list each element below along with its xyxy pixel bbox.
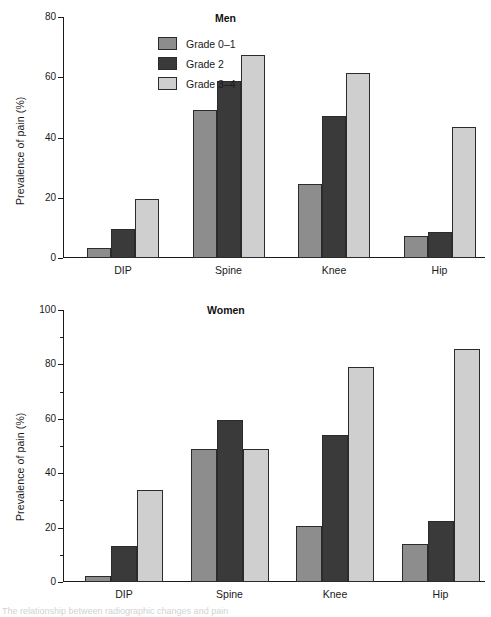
- y-tick-label: 0: [50, 253, 56, 263]
- y-tick-label: 100: [39, 305, 56, 315]
- bar: [402, 544, 428, 582]
- x-axis-category-label: Hip: [432, 264, 448, 276]
- y-tick-label: 80: [45, 12, 56, 22]
- y-tick-mark: [58, 528, 63, 529]
- figure-prevalence-of-pain: Prevalence of pain (%) Men 020406080 DIP…: [0, 0, 491, 617]
- y-tick-mark: [58, 138, 63, 139]
- y-tick-mark: [58, 17, 63, 18]
- y-tick-label: 60: [45, 72, 56, 82]
- legend-label-grade-2: Grade 2: [186, 58, 224, 70]
- y-tick-mark-minor: [60, 337, 63, 338]
- y-tick-label: 20: [45, 523, 56, 533]
- y-tick-mark: [58, 364, 63, 365]
- y-tick-label: 20: [45, 193, 56, 203]
- y-tick-label: 60: [45, 414, 56, 424]
- bar: [298, 184, 322, 258]
- legend-label-grade-3-4: Grade 3–4: [186, 78, 236, 90]
- legend: Grade 0–1 Grade 2 Grade 3–4: [158, 35, 236, 95]
- x-axis-category-label: Knee: [323, 588, 348, 600]
- bar: [452, 127, 476, 258]
- y-tick-mark: [58, 77, 63, 78]
- plot-area-women: 020406080100 DIPSpineKneeHip: [63, 310, 485, 582]
- y-tick-label: 40: [45, 468, 56, 478]
- bar-group: DIP: [87, 17, 159, 258]
- bar: [217, 420, 243, 582]
- bar: [111, 546, 137, 582]
- bar: [241, 55, 265, 258]
- y-tick-mark: [58, 258, 63, 259]
- bar: [348, 367, 374, 582]
- bar: [243, 449, 269, 582]
- bar: [87, 248, 111, 258]
- legend-item: Grade 0–1: [158, 35, 236, 52]
- y-axis-label-men: Prevalence of pain (%): [14, 97, 26, 205]
- figure-caption: The relationship between radiographic ch…: [2, 606, 472, 617]
- x-axis-category-label: Spine: [215, 264, 242, 276]
- x-axis-category-label: Hip: [433, 588, 449, 600]
- bar: [191, 449, 217, 582]
- bar: [428, 232, 452, 258]
- bar-group: Hip: [404, 17, 476, 258]
- bar: [404, 236, 428, 258]
- legend-swatch-grade-0-1: [158, 37, 177, 50]
- bar: [322, 435, 348, 582]
- bar: [137, 490, 163, 582]
- y-axis-line-women: [63, 310, 64, 582]
- y-axis-line-men: [63, 17, 64, 258]
- y-tick-mark: [58, 419, 63, 420]
- y-tick-mark-minor: [60, 555, 63, 556]
- bar: [346, 73, 370, 258]
- bar: [111, 229, 135, 258]
- y-tick-mark: [58, 310, 63, 311]
- bar-group: Spine: [191, 310, 269, 582]
- legend-item: Grade 3–4: [158, 75, 236, 92]
- y-tick-label: 0: [50, 577, 56, 587]
- bar-group: Knee: [296, 310, 374, 582]
- bar: [135, 199, 159, 258]
- bar: [85, 576, 111, 582]
- x-axis-category-label: Spine: [216, 588, 243, 600]
- legend-item: Grade 2: [158, 55, 236, 72]
- y-tick-mark-minor: [60, 446, 63, 447]
- y-tick-mark: [58, 198, 63, 199]
- y-tick-label: 40: [45, 133, 56, 143]
- x-axis-category-label: DIP: [114, 264, 132, 276]
- y-tick-mark-minor: [60, 500, 63, 501]
- legend-label-grade-0-1: Grade 0–1: [186, 38, 236, 50]
- bar: [322, 116, 346, 258]
- y-tick-mark-minor: [60, 392, 63, 393]
- bar: [193, 110, 217, 258]
- y-tick-mark: [58, 582, 63, 583]
- legend-swatch-grade-3-4: [158, 77, 177, 90]
- bar-group: Hip: [402, 310, 480, 582]
- bar: [217, 81, 241, 258]
- y-tick-mark: [58, 473, 63, 474]
- y-axis-label-women: Prevalence of pain (%): [14, 413, 26, 521]
- x-axis-category-label: DIP: [115, 588, 133, 600]
- plot-area-men: 020406080 DIPSpineKneeHip Grade 0–1 Grad…: [63, 17, 485, 258]
- bar: [428, 521, 454, 582]
- legend-swatch-grade-2: [158, 57, 177, 70]
- bar: [296, 526, 322, 582]
- bar-group: DIP: [85, 310, 163, 582]
- y-tick-label: 80: [45, 359, 56, 369]
- bar: [454, 349, 480, 582]
- x-axis-category-label: Knee: [322, 264, 347, 276]
- bar-group: Knee: [298, 17, 370, 258]
